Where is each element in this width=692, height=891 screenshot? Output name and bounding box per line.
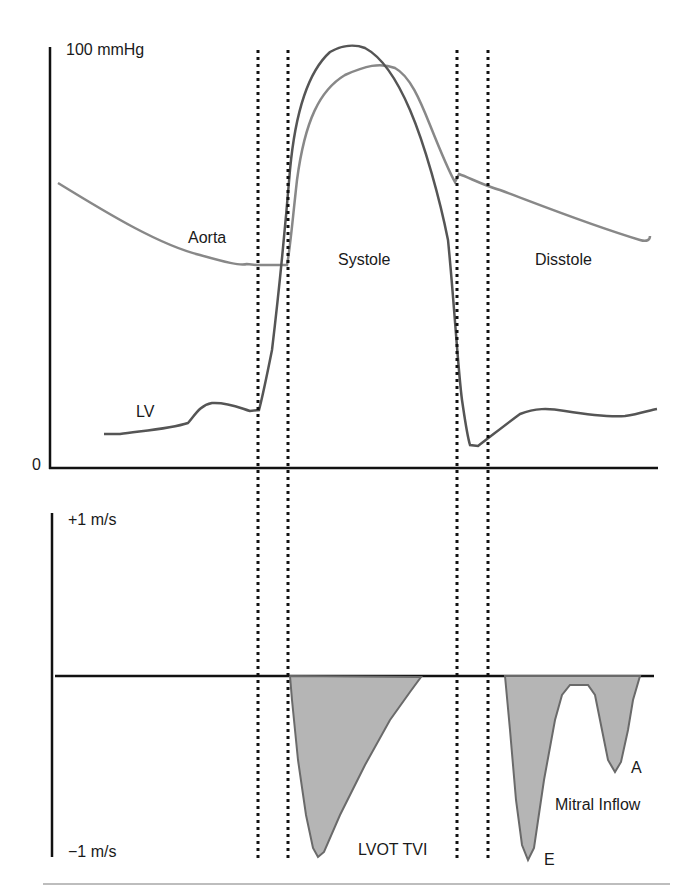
mitral-inflow-label: Mitral Inflow [555, 797, 640, 813]
diastole-label: Disstole [535, 252, 592, 268]
a-wave-label: A [631, 760, 642, 776]
systole-label: Systole [338, 252, 390, 268]
lv-label: LV [136, 404, 154, 420]
aorta-pressure-curve [58, 65, 650, 265]
pressure-max-label: 100 mmHg [66, 42, 144, 58]
e-wave-label: E [544, 852, 555, 868]
pressure-zero-label: 0 [32, 457, 41, 473]
velocity-min-label: −1 m/s [68, 844, 116, 860]
hemodynamics-figure [0, 0, 692, 891]
mitral-inflow-envelope [505, 676, 640, 860]
lvot-tvi-label: LVOT TVI [358, 842, 427, 858]
aorta-label: Aorta [188, 230, 226, 246]
lv-pressure-curve [104, 46, 657, 446]
lvot-tvi-envelope [290, 676, 421, 857]
velocity-max-label: +1 m/s [68, 512, 116, 528]
